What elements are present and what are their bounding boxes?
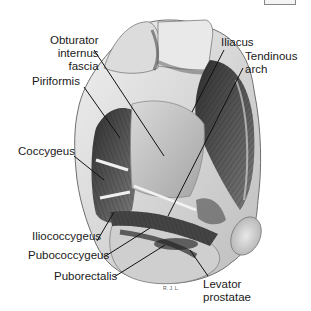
label-line: prostatae — [203, 291, 251, 304]
label-line: Coccygeus — [18, 145, 75, 158]
label-levator-prostatae: Levator prostatae — [203, 278, 251, 304]
label-line: Tendinous — [245, 50, 297, 63]
label-line: arch — [245, 63, 297, 76]
label-iliococcygeus: Iliococcygeus — [32, 230, 101, 243]
label-pubococcygeus: Pubococcygeus — [28, 249, 109, 262]
label-iliacus: Iliacus — [221, 36, 254, 49]
label-line: Iliacus — [221, 36, 254, 49]
label-line: Pubococcygeus — [28, 249, 109, 262]
label-line: Obturator — [50, 34, 99, 47]
label-line: Piriformis — [32, 75, 80, 88]
label-coccygeus: Coccygeus — [18, 145, 75, 158]
label-line: internus — [50, 47, 99, 60]
label-obturator-internus-fascia: Obturator internus fascia — [50, 34, 99, 73]
anatomy-figure: Obturator internus fascia Piriformis Coc… — [0, 0, 311, 311]
label-puborectalis: Puborectalis — [54, 270, 117, 283]
label-tendinous-arch: Tendinous arch — [245, 50, 297, 76]
label-line: Levator — [203, 278, 251, 291]
artist-signature: R. J. L. — [163, 285, 179, 291]
label-piriformis: Piriformis — [32, 75, 80, 88]
label-line: fascia — [50, 60, 99, 73]
label-line: Iliococcygeus — [32, 230, 101, 243]
label-line: Puborectalis — [54, 270, 117, 283]
